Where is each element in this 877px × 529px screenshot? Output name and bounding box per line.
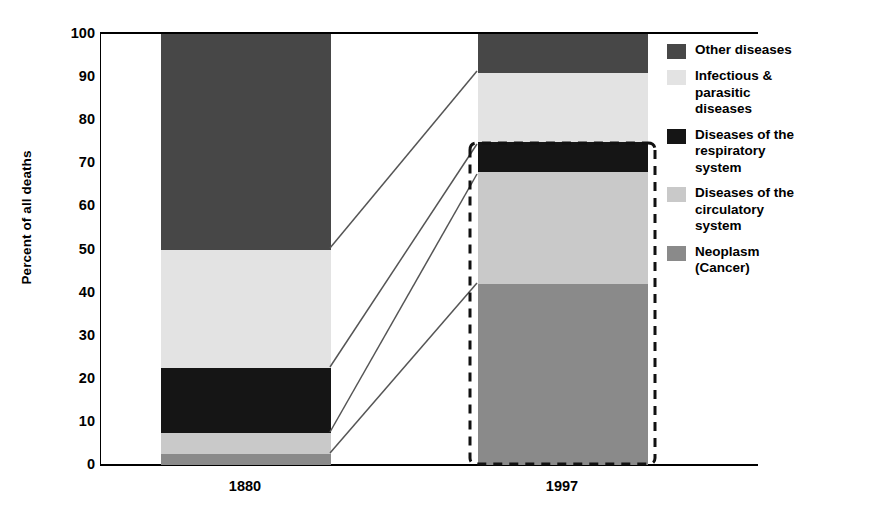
y-tick-90: 90 bbox=[55, 69, 95, 84]
y-tick-80: 80 bbox=[55, 112, 95, 127]
y-tick-50: 50 bbox=[55, 242, 95, 257]
legend-swatch-icon-3 bbox=[667, 187, 686, 202]
legend-item-1[interactable]: Infectious & parasitic diseases bbox=[667, 68, 872, 118]
x-axis-label-1880: 1880 bbox=[160, 478, 330, 494]
y-tick-10: 10 bbox=[55, 414, 95, 429]
bar-segment-1997-neoplasm-cancer bbox=[478, 284, 648, 465]
legend-label-4: Neoplasm (Cancer) bbox=[695, 244, 760, 277]
bar-segment-1880-infectious-parasitic-diseases bbox=[161, 250, 331, 369]
legend: Other diseasesInfectious & parasitic dis… bbox=[667, 42, 872, 286]
y-tick-40: 40 bbox=[55, 285, 95, 300]
plot-area bbox=[100, 33, 654, 466]
legend-item-2[interactable]: Diseases of the respiratory system bbox=[667, 127, 872, 177]
bar-segment-1880-diseases-of-the-circulatory-system bbox=[161, 433, 331, 455]
legend-label-2: Diseases of the respiratory system bbox=[695, 127, 794, 177]
y-tick-30: 30 bbox=[55, 328, 95, 343]
y-tick-70: 70 bbox=[55, 155, 95, 170]
legend-swatch-icon-2 bbox=[667, 129, 686, 144]
legend-item-4[interactable]: Neoplasm (Cancer) bbox=[667, 244, 872, 277]
bar-segment-1997-diseases-of-the-respiratory-system bbox=[478, 142, 648, 172]
legend-item-0[interactable]: Other diseases bbox=[667, 42, 872, 59]
legend-label-3: Diseases of the circulatory system bbox=[695, 185, 794, 235]
x-axis-label-1997: 1997 bbox=[477, 478, 647, 494]
legend-swatch-icon-0 bbox=[667, 44, 686, 59]
y-tick-20: 20 bbox=[55, 371, 95, 386]
bar-segment-1997-diseases-of-the-circulatory-system bbox=[478, 172, 648, 284]
y-axis-tick-labels: 1009080706050403020100 bbox=[55, 0, 95, 529]
bar-segment-1880-neoplasm-cancer bbox=[161, 454, 331, 465]
legend-label-1: Infectious & parasitic diseases bbox=[695, 68, 772, 118]
y-axis-title: Percent of all deaths bbox=[19, 118, 34, 318]
stacked-bar-chart: Percent of all deaths 100908070605040302… bbox=[0, 0, 877, 529]
bar-1880 bbox=[161, 34, 331, 465]
bar-1997 bbox=[478, 34, 648, 465]
bar-segment-1997-other-diseases bbox=[478, 34, 648, 73]
legend-label-0: Other diseases bbox=[695, 42, 792, 59]
y-tick-100: 100 bbox=[55, 26, 95, 41]
legend-item-3[interactable]: Diseases of the circulatory system bbox=[667, 185, 872, 235]
y-tick-60: 60 bbox=[55, 198, 95, 213]
legend-swatch-icon-1 bbox=[667, 70, 686, 85]
y-tick-0: 0 bbox=[55, 457, 95, 472]
bar-segment-1880-diseases-of-the-respiratory-system bbox=[161, 368, 331, 433]
bar-segment-1997-infectious-parasitic-diseases bbox=[478, 73, 648, 142]
legend-swatch-icon-4 bbox=[667, 246, 686, 261]
bar-segment-1880-other-diseases bbox=[161, 34, 331, 250]
